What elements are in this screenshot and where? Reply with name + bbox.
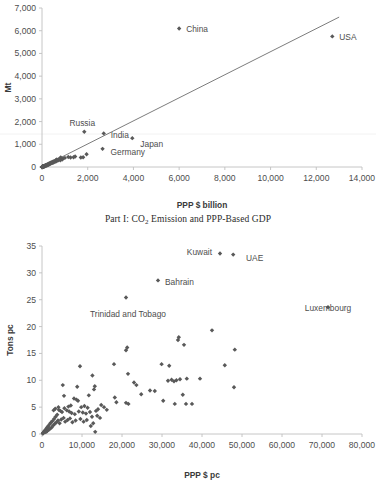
caption-text: Part I: CO2 Emission and PPP-Based GDP bbox=[0, 214, 376, 226]
data-point-marker bbox=[190, 402, 194, 406]
figure-caption-part-one: Part I: CO2 Emission and PPP-Based GDP bbox=[0, 214, 376, 230]
point-annotation-label: China bbox=[186, 24, 208, 34]
data-point-marker bbox=[93, 384, 97, 388]
data-point-marker bbox=[210, 328, 214, 332]
point-annotation-label: UAE bbox=[246, 253, 264, 263]
x-tick-label: 40,000 bbox=[189, 440, 216, 450]
data-point-marker bbox=[233, 347, 237, 351]
point-annotation-label: USA bbox=[339, 32, 357, 42]
x-tick-label: 4,000 bbox=[123, 173, 145, 183]
chart-co2-vs-gdp-canvas: 01,0002,0003,0004,0005,0006,0007,00002,0… bbox=[0, 0, 376, 212]
data-point-marker bbox=[114, 400, 118, 404]
y-tick-label: 0 bbox=[31, 162, 36, 172]
data-point-marker bbox=[78, 417, 82, 421]
data-point-marker bbox=[92, 387, 96, 391]
y-axis-title: Mt bbox=[3, 82, 13, 92]
data-points-group bbox=[40, 26, 335, 169]
data-point-marker bbox=[75, 385, 79, 389]
data-point-marker bbox=[231, 252, 235, 256]
data-point-marker bbox=[61, 383, 65, 387]
x-tick-label: 0 bbox=[40, 440, 45, 450]
data-point-marker bbox=[159, 362, 163, 366]
x-tick-label: 14,000 bbox=[349, 173, 376, 183]
data-point-marker bbox=[177, 26, 181, 30]
data-point-marker bbox=[82, 130, 86, 134]
x-tick-label: 12,000 bbox=[303, 173, 330, 183]
x-tick-label: 70,000 bbox=[309, 440, 336, 450]
data-point-marker bbox=[113, 395, 117, 399]
point-annotation-label: Bahrain bbox=[165, 277, 194, 287]
chart-co2-vs-gdp: 01,0002,0003,0004,0005,0006,0007,00002,0… bbox=[0, 0, 376, 212]
x-axis-title: PPP $ pc bbox=[184, 470, 220, 480]
x-tick-label: 10,000 bbox=[69, 440, 96, 450]
data-point-marker bbox=[84, 152, 88, 156]
data-point-marker bbox=[173, 402, 177, 406]
chart-percapita-canvas: 05101520253035010,00020,00030,00040,0005… bbox=[0, 236, 376, 482]
data-point-marker bbox=[148, 388, 152, 392]
data-point-marker bbox=[330, 34, 334, 38]
y-axis-title: Tons pc bbox=[5, 324, 15, 356]
data-point-marker bbox=[153, 389, 157, 393]
data-point-marker bbox=[232, 385, 236, 389]
data-point-marker bbox=[78, 364, 82, 368]
x-tick-label: 20,000 bbox=[109, 440, 136, 450]
chart-percapita-co2-vs-gdp: 05101520253035010,00020,00030,00040,0005… bbox=[0, 236, 376, 482]
x-axis-title: PPP $ billion bbox=[177, 200, 228, 210]
data-point-marker bbox=[223, 363, 227, 367]
y-tick-label: 30 bbox=[26, 268, 36, 278]
x-tick-label: 2,000 bbox=[77, 173, 99, 183]
y-tick-label: 5,000 bbox=[14, 48, 36, 58]
point-annotation-label: Luxembourg bbox=[305, 303, 352, 313]
y-tick-label: 35 bbox=[26, 241, 36, 251]
data-point-marker bbox=[181, 393, 185, 397]
x-tick-label: 10,000 bbox=[257, 173, 284, 183]
y-tick-label: 6,000 bbox=[14, 26, 36, 36]
point-annotation-label: India bbox=[111, 130, 130, 140]
x-tick-label: 80,000 bbox=[349, 440, 376, 450]
data-point-marker bbox=[139, 392, 143, 396]
data-point-marker bbox=[166, 379, 170, 383]
point-annotation-label: Germany bbox=[111, 147, 146, 157]
data-point-marker bbox=[126, 372, 130, 376]
data-point-marker bbox=[184, 402, 188, 406]
data-point-marker bbox=[93, 430, 97, 434]
point-annotation-label: Trinidad and Tobago bbox=[90, 309, 166, 319]
data-point-marker bbox=[87, 393, 91, 397]
y-tick-label: 10 bbox=[26, 375, 36, 385]
data-point-marker bbox=[105, 408, 109, 412]
caption-prefix: Part I: CO bbox=[105, 214, 145, 224]
y-tick-label: 0 bbox=[31, 429, 36, 439]
data-point-marker bbox=[77, 409, 81, 413]
y-tick-label: 1,000 bbox=[14, 139, 36, 149]
data-point-marker bbox=[88, 410, 92, 414]
data-point-marker bbox=[161, 398, 165, 402]
data-point-marker bbox=[218, 251, 222, 255]
data-point-marker bbox=[100, 147, 104, 151]
data-point-marker bbox=[62, 394, 66, 398]
point-annotation-label: Russia bbox=[69, 118, 95, 128]
x-tick-label: 8,000 bbox=[214, 173, 236, 183]
data-point-marker bbox=[185, 376, 189, 380]
y-tick-label: 25 bbox=[26, 295, 36, 305]
data-point-marker bbox=[130, 136, 134, 140]
x-tick-label: 60,000 bbox=[269, 440, 296, 450]
data-point-marker bbox=[90, 415, 94, 419]
x-tick-label: 0 bbox=[40, 173, 45, 183]
data-point-marker bbox=[167, 364, 171, 368]
data-point-marker bbox=[182, 343, 186, 347]
data-point-marker bbox=[124, 295, 128, 299]
caption-suffix: Emission and PPP-Based GDP bbox=[149, 214, 272, 224]
y-tick-label: 2,000 bbox=[14, 117, 36, 127]
data-point-marker bbox=[156, 278, 160, 282]
y-tick-label: 7,000 bbox=[14, 3, 36, 13]
data-point-marker bbox=[90, 373, 94, 377]
data-point-marker bbox=[112, 362, 116, 366]
y-tick-label: 20 bbox=[26, 322, 36, 332]
trendline bbox=[42, 17, 339, 167]
data-point-marker bbox=[198, 376, 202, 380]
point-annotation-label: Kuwait bbox=[187, 247, 213, 257]
y-tick-label: 4,000 bbox=[14, 71, 36, 81]
y-tick-label: 5 bbox=[31, 402, 36, 412]
x-tick-label: 50,000 bbox=[229, 440, 256, 450]
x-tick-label: 6,000 bbox=[168, 173, 190, 183]
